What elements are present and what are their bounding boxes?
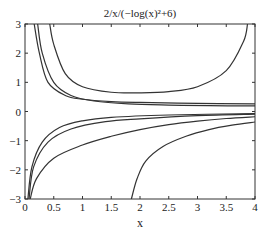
y-tick-label: −2 (9, 164, 21, 176)
x-tick-label: 0 (22, 201, 28, 213)
x-tick-label: 2.5 (162, 201, 176, 213)
y-tick-label: 0 (16, 106, 22, 118)
x-tick-label: 1.5 (104, 201, 118, 213)
x-tick-label: 3.5 (219, 201, 233, 213)
y-tick-label: 2 (16, 47, 22, 59)
curve-upper-1 (34, 24, 255, 104)
chart-title: 2/x/(−log(x)²+6) (104, 7, 177, 20)
x-axis-label: x (137, 216, 143, 230)
x-tick-label: 2 (137, 201, 143, 213)
y-tick-label: −3 (9, 193, 21, 205)
plot-lines (28, 24, 255, 199)
curve-lower-4 (131, 122, 255, 199)
curve-lower-1 (28, 114, 255, 199)
x-tick-label: 3 (195, 201, 201, 213)
y-axis-ticks: 3210−1−2−3 (9, 18, 255, 205)
x-tick-label: 1 (80, 201, 86, 213)
y-tick-label: −1 (9, 135, 21, 147)
x-tick-label: 0.5 (47, 201, 61, 213)
curve-lower-3 (30, 117, 255, 199)
y-tick-label: 1 (16, 76, 22, 88)
chart: 2/x/(−log(x)²+6) 00.511.522.533.54 3210−… (0, 0, 267, 235)
y-tick-label: 3 (16, 18, 22, 30)
curve-upper-2 (38, 24, 255, 106)
curve-u (50, 24, 248, 93)
x-tick-label: 4 (252, 201, 258, 213)
